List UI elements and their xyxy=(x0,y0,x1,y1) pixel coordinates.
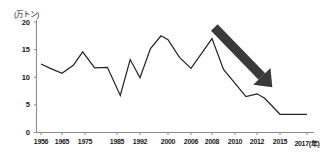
decline-arrow-shaft xyxy=(211,24,265,79)
chart-container: (万トン) 05101520 1956196519751985199220002… xyxy=(0,0,323,157)
y-axis-tick-label: 0 xyxy=(14,128,30,137)
decline-arrow xyxy=(211,24,272,87)
y-axis-tick-label: 5 xyxy=(14,100,30,109)
line-chart-plot xyxy=(0,0,323,157)
y-axis-tick-label: 10 xyxy=(14,73,30,82)
y-axis-tick-label: 15 xyxy=(14,45,30,54)
x-axis-tick-label: 2017(年) xyxy=(287,138,323,148)
y-axis-tick-label: 20 xyxy=(14,18,30,27)
